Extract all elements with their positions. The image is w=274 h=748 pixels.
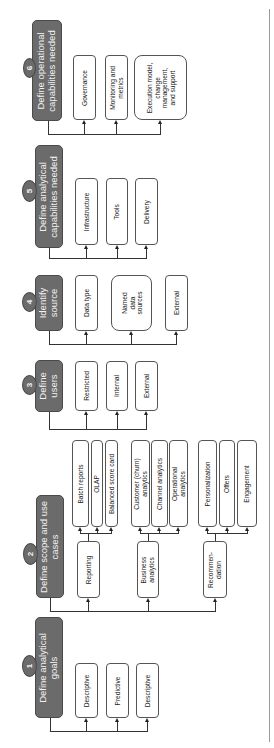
step-4-connector-drop xyxy=(176,334,177,345)
step-2-leaf-batch-reports: Batch reports xyxy=(72,440,89,527)
arrow-icon xyxy=(115,245,119,249)
step-5-title: Define analytical capabilities needed xyxy=(38,149,60,244)
arrow-icon xyxy=(82,120,86,124)
step-1-connector-drop xyxy=(86,721,87,732)
step-4-title: Identify source xyxy=(38,278,60,328)
step-3-connector-drop xyxy=(117,414,118,430)
step-6-child-execution: Execution model, change management, and … xyxy=(134,55,187,120)
step-6-number-badge: 6 xyxy=(23,58,36,78)
arrow-icon xyxy=(205,527,209,531)
step-2-business-connector xyxy=(148,533,149,541)
step-2-leaf-operational-analytics: Operational analytics xyxy=(169,440,188,527)
step-2-leaf-olap: OLAP xyxy=(91,440,103,527)
step-1-title: Define analytical goals xyxy=(38,623,60,713)
step-4-connector xyxy=(49,331,50,345)
step-6-header: Define operational capabilities needed xyxy=(32,20,62,121)
step-2-leaf-customer-churn-analytics: Customer (churn) analytics xyxy=(131,440,150,527)
step-3-connector-drop xyxy=(86,414,87,430)
step-4-child-data-type: Data type xyxy=(75,275,98,331)
arrow-icon xyxy=(115,718,119,722)
step-2-connector-drop xyxy=(88,601,89,612)
arrow-icon xyxy=(225,527,229,531)
arrow-icon xyxy=(114,120,118,124)
step-4-child-external: External xyxy=(165,275,188,331)
step-2-child-reporting: Reporting xyxy=(77,541,100,598)
step-2-connector-drop xyxy=(215,601,216,612)
step-2-leaf-offers: Offers xyxy=(219,440,235,527)
step-3-title: Define users xyxy=(38,366,60,406)
arrow-icon xyxy=(144,411,148,415)
step-2-header: Define scope and use cases xyxy=(36,495,64,598)
arrow-icon xyxy=(144,245,148,249)
arrow-icon xyxy=(84,411,88,415)
step-1-number-badge: 1 xyxy=(22,655,37,677)
step-2-recommendation-connector xyxy=(215,533,216,541)
arrow-icon xyxy=(174,331,178,335)
step-6-child-governance: Governance xyxy=(73,55,96,120)
step-2-leaf-personalization: Personalization xyxy=(198,440,217,527)
step-1-connector-drop xyxy=(117,721,118,732)
step-4-connector-bar xyxy=(49,344,177,345)
step-5-connector-drop xyxy=(146,248,147,259)
arrow-icon xyxy=(213,598,217,602)
step-2-title: Define scope and use cases xyxy=(39,499,61,594)
step-6-connector-drop xyxy=(84,124,85,135)
step-3-connector xyxy=(49,412,50,430)
step-2-leaf-engagement: Engagement xyxy=(237,440,257,527)
step-6-title: Define operational capabilities needed xyxy=(36,23,58,118)
step-4-connector-drop xyxy=(86,334,87,345)
arrow-icon xyxy=(138,527,142,531)
step-5-connector-drop xyxy=(117,248,118,259)
step-3-child-external: External xyxy=(135,361,158,411)
step-1-connector-bar xyxy=(50,731,148,732)
step-2-connector-bar xyxy=(50,611,216,612)
step-5-connector-bar xyxy=(49,258,147,259)
step-3-number-badge: 3 xyxy=(22,375,37,395)
step-4-header: Identify source xyxy=(35,275,63,331)
step-5-child-tools: Tools xyxy=(106,178,128,245)
step-2-leaf-channel-analytics: Channel analytics xyxy=(151,440,168,527)
step-6-child-monitoring: Monitoring and metrics xyxy=(105,55,128,120)
step-5-child-delivery: Delivery xyxy=(135,178,158,245)
arrow-icon xyxy=(84,718,88,722)
step-6-connector-bar xyxy=(48,134,161,135)
step-1-connector-drop xyxy=(147,721,148,732)
step-1-child-descriptive: Descriptive xyxy=(75,663,98,718)
step-2-leaf-balanced-score-card: Balanced score card xyxy=(105,440,118,527)
arrow-icon xyxy=(245,527,249,531)
step-4-child-named-data-sources: Named data sources xyxy=(111,275,152,331)
step-6-connector xyxy=(48,121,49,135)
step-2-connector xyxy=(50,598,51,612)
arrow-icon xyxy=(86,598,90,602)
arrow-icon xyxy=(146,598,150,602)
arrow-icon xyxy=(145,718,149,722)
step-2-connector-drop xyxy=(148,601,149,612)
step-3-child-internal: Internal xyxy=(106,361,128,411)
step-6-connector-drop xyxy=(116,124,117,135)
arrow-icon xyxy=(115,411,119,415)
page-edge-rule xyxy=(269,9,270,742)
step-5-header: Define analytical capabilities needed xyxy=(35,145,63,248)
arrow-icon xyxy=(176,527,180,531)
step-1-child-predictive: Predictive xyxy=(106,663,129,718)
step-3-connector-drop xyxy=(146,414,147,430)
arrow-icon xyxy=(157,527,161,531)
step-5-number-badge: 5 xyxy=(22,180,37,202)
step-2-reporting-connector xyxy=(88,533,89,541)
step-5-child-infrastructure: Infrastructure xyxy=(75,178,98,245)
step-1-connector xyxy=(50,718,51,732)
step-3-child-restricted: Restricted xyxy=(75,361,98,411)
arrow-icon xyxy=(84,331,88,335)
arrow-icon xyxy=(109,527,113,531)
step-1-header: Define analytical goals xyxy=(35,617,63,718)
step-3-connector-bar xyxy=(49,429,147,430)
step-3-header: Define users xyxy=(35,360,63,412)
arrow-icon xyxy=(84,245,88,249)
step-2-child-business-analytics: Business analytics xyxy=(137,541,159,598)
arrow-icon xyxy=(95,527,99,531)
step-5-connector-drop xyxy=(86,248,87,259)
step-1-child-descriptive-2: Descriptive xyxy=(136,663,159,718)
step-2-number-badge: 2 xyxy=(23,543,38,565)
step-4-connector-drop xyxy=(131,334,132,345)
step-6-connector-drop xyxy=(160,124,161,135)
